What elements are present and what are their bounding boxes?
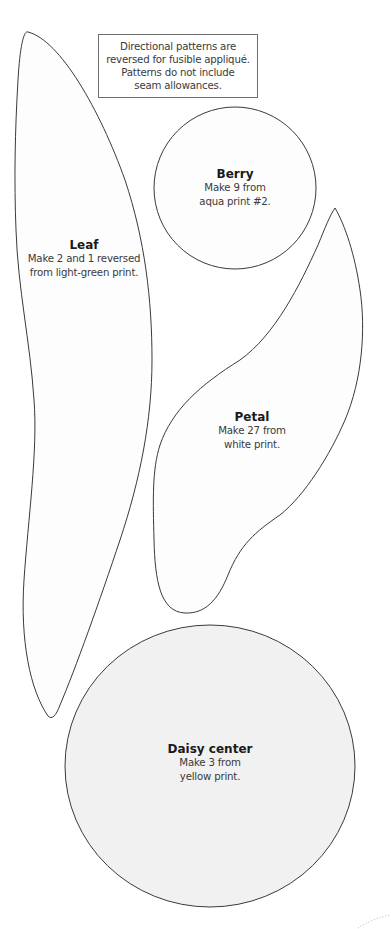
leaf-title: Leaf bbox=[28, 238, 140, 252]
berry-title: Berry bbox=[199, 167, 270, 181]
petal-instruction: white print. bbox=[218, 438, 286, 452]
dotted-arc-decoration bbox=[358, 915, 391, 928]
leaf-instruction: Make 2 and 1 reversed bbox=[28, 252, 140, 266]
leaf-instruction: from light-green print. bbox=[28, 266, 140, 280]
note-line: seam allowances. bbox=[134, 79, 221, 92]
daisy-center-instruction: yellow print. bbox=[168, 770, 253, 784]
daisy-center-label: Daisy center Make 3 from yellow print. bbox=[168, 742, 253, 783]
petal-title: Petal bbox=[218, 410, 286, 424]
berry-label: Berry Make 9 from aqua print #2. bbox=[199, 167, 270, 208]
pattern-note-box: Directional patterns are reversed for fu… bbox=[98, 34, 258, 98]
daisy-center-title: Daisy center bbox=[168, 742, 253, 756]
note-line: Directional patterns are bbox=[120, 40, 236, 53]
pattern-canvas bbox=[0, 0, 391, 929]
leaf-shape bbox=[15, 32, 152, 718]
note-line: reversed for fusible appliqué. bbox=[106, 53, 250, 66]
leaf-label: Leaf Make 2 and 1 reversed from light-gr… bbox=[28, 238, 140, 279]
berry-instruction: aqua print #2. bbox=[199, 195, 270, 209]
daisy-center-instruction: Make 3 from bbox=[168, 756, 253, 770]
note-line: Patterns do not include bbox=[121, 66, 234, 79]
petal-label: Petal Make 27 from white print. bbox=[218, 410, 286, 451]
berry-instruction: Make 9 from bbox=[199, 181, 270, 195]
petal-instruction: Make 27 from bbox=[218, 424, 286, 438]
